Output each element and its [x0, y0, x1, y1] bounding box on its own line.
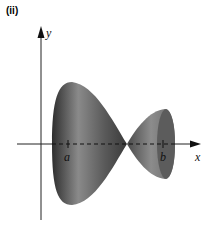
x-axis-label: x	[195, 150, 200, 165]
tick-a-label: a	[64, 150, 70, 165]
y-axis-arrow-icon	[38, 26, 45, 38]
tick-b-label: b	[160, 150, 166, 165]
solid-of-revolution-diagram	[0, 0, 221, 232]
y-axis-label: y	[46, 26, 51, 41]
x-axis-arrow-icon	[190, 141, 201, 148]
